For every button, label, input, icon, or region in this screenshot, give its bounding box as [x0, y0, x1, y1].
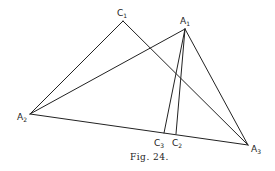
geometry-figure: C1 A1 A2 A3 C3 C2 Fig. 24.	[0, 0, 275, 171]
label-a1: A1	[180, 16, 190, 27]
label-c3: C3	[154, 138, 164, 149]
segment-a1-c3	[164, 29, 185, 133]
segment-a1-a3	[185, 29, 248, 145]
segment-a2-c1	[30, 21, 123, 114]
segment-c1-a3	[123, 21, 248, 145]
segment-a2-a3	[30, 114, 248, 145]
label-c1: C1	[117, 8, 127, 19]
label-a3: A3	[251, 144, 261, 155]
label-c2: C2	[172, 138, 182, 149]
segments	[30, 21, 248, 145]
label-a2: A2	[17, 112, 27, 123]
figure-caption: Fig. 24.	[130, 152, 169, 162]
point-labels: C1 A1 A2 A3 C3 C2	[17, 8, 261, 155]
segment-a2-a1	[30, 29, 185, 114]
